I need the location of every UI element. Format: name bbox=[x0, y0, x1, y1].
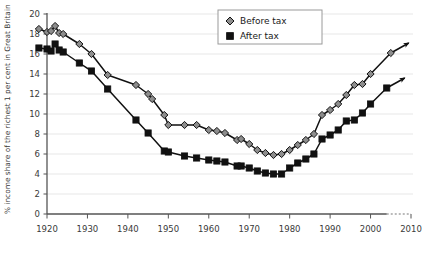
data-point-diamond bbox=[262, 149, 269, 156]
data-point-square bbox=[36, 45, 42, 51]
legend-marker-square-icon bbox=[227, 33, 234, 40]
y-tick-labels: 02468101214161820 bbox=[29, 9, 47, 219]
data-point-square bbox=[254, 168, 260, 174]
x-tick-label: 1930 bbox=[77, 224, 99, 234]
chart-canvas: 02468101214161820 1920193019401950196019… bbox=[0, 0, 424, 254]
data-point-diamond bbox=[193, 121, 200, 128]
data-point-diamond bbox=[318, 111, 325, 118]
data-point-square bbox=[52, 41, 58, 47]
data-point-square bbox=[367, 101, 373, 107]
data-point-square bbox=[194, 155, 200, 161]
data-point-square bbox=[359, 110, 365, 116]
data-point-square bbox=[165, 149, 171, 155]
x-tick-label: 1960 bbox=[198, 224, 220, 234]
data-point-diamond bbox=[221, 129, 228, 136]
data-point-square bbox=[222, 159, 228, 165]
x-tick-label: 1950 bbox=[158, 224, 180, 234]
y-tick-label: 4 bbox=[35, 169, 40, 179]
data-point-square bbox=[278, 171, 284, 177]
series-after-tax bbox=[36, 41, 405, 177]
data-point-square bbox=[246, 165, 252, 171]
data-point-square bbox=[287, 165, 293, 171]
data-point-square bbox=[133, 117, 139, 123]
data-point-square bbox=[262, 170, 268, 176]
data-point-square bbox=[295, 160, 301, 166]
legend-label: Before tax bbox=[240, 16, 287, 26]
y-tick-label: 20 bbox=[29, 9, 40, 19]
data-point-square bbox=[238, 163, 244, 169]
data-point-square bbox=[384, 85, 390, 91]
series-line bbox=[39, 26, 391, 155]
data-point-diamond bbox=[294, 141, 301, 148]
data-point-square bbox=[88, 68, 94, 74]
data-point-diamond bbox=[165, 121, 172, 128]
data-point-diamond bbox=[205, 126, 212, 133]
x-tick-label: 1920 bbox=[36, 224, 58, 234]
y-axis-label: % income share of the richest 1 per cent… bbox=[3, 4, 12, 214]
y-tick-label: 8 bbox=[35, 129, 40, 139]
data-point-square bbox=[303, 156, 309, 162]
y-tick-label: 12 bbox=[29, 89, 40, 99]
data-point-diamond bbox=[278, 150, 285, 157]
chart-legend[interactable]: Before taxAfter tax bbox=[218, 10, 322, 44]
data-point-square bbox=[60, 49, 66, 55]
data-point-square bbox=[105, 86, 111, 92]
data-point-square bbox=[181, 153, 187, 159]
data-point-square bbox=[335, 127, 341, 133]
data-point-square bbox=[214, 158, 220, 164]
data-point-square bbox=[327, 132, 333, 138]
data-point-square bbox=[48, 48, 54, 54]
y-tick-label: 10 bbox=[29, 109, 40, 119]
data-point-square bbox=[270, 171, 276, 177]
x-tick-label: 1990 bbox=[319, 224, 341, 234]
data-point-square bbox=[343, 118, 349, 124]
legend-label: After tax bbox=[240, 31, 280, 41]
data-point-square bbox=[76, 60, 82, 66]
x-tick-labels: 1920193019401950196019701980199020002010 bbox=[36, 214, 422, 234]
x-tick-label: 2010 bbox=[400, 224, 422, 234]
x-tick-label: 1970 bbox=[238, 224, 260, 234]
data-point-diamond bbox=[270, 151, 277, 158]
y-tick-label: 0 bbox=[35, 209, 40, 219]
income-share-chart: 02468101214161820 1920193019401950196019… bbox=[0, 0, 424, 254]
y-tick-label: 6 bbox=[35, 149, 40, 159]
data-point-square bbox=[319, 136, 325, 142]
data-point-diamond bbox=[286, 146, 293, 153]
data-point-square bbox=[145, 130, 151, 136]
x-tick-label: 1980 bbox=[279, 224, 301, 234]
data-point-square bbox=[311, 151, 317, 157]
data-point-square bbox=[206, 157, 212, 163]
x-tick-label: 1940 bbox=[117, 224, 139, 234]
x-tick-label: 2000 bbox=[360, 224, 382, 234]
y-tick-label: 14 bbox=[29, 69, 40, 79]
data-point-diamond bbox=[181, 121, 188, 128]
y-tick-label: 2 bbox=[35, 189, 40, 199]
data-point-square bbox=[351, 117, 357, 123]
